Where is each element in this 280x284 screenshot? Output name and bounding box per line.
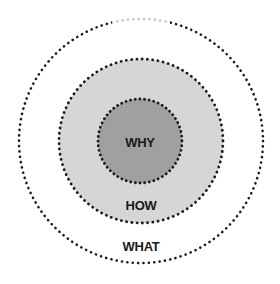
what-label: WHAT — [123, 239, 160, 254]
golden-circle-diagram: WHY HOW WHAT — [0, 0, 280, 284]
how-label: HOW — [126, 198, 158, 213]
why-label: WHY — [125, 135, 155, 150]
top-fade — [112, 10, 170, 26]
